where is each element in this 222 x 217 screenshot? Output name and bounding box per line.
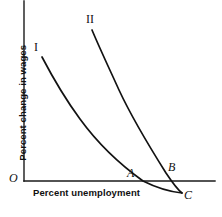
phillips-curve-figure: Percent change in wages Percent unemploy… xyxy=(0,0,222,217)
curve-one-path xyxy=(42,57,182,193)
point-b-label: B xyxy=(168,161,175,173)
chart-canvas xyxy=(0,0,222,217)
curve-one-label: I xyxy=(34,41,38,53)
origin-label: O xyxy=(9,172,18,184)
curve-two-label: II xyxy=(86,13,94,25)
y-axis-title: Percent change in wages xyxy=(18,33,28,173)
point-c-label: C xyxy=(184,189,192,201)
point-a-label: A xyxy=(127,167,134,179)
x-axis-title: Percent unemployment xyxy=(33,188,140,198)
